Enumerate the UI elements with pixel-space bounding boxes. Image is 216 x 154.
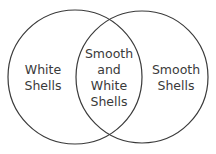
left-label-line2: Shells — [18, 78, 68, 94]
intersection-line1: Smooth — [83, 46, 135, 62]
right-label-line2: Shells — [148, 78, 204, 94]
intersection-line2: and — [83, 62, 135, 78]
right-label-line1: Smooth — [148, 62, 204, 78]
intersection-line3: White — [83, 78, 135, 94]
right-set-label: Smooth Shells — [148, 62, 204, 94]
intersection-line4: Shells — [83, 94, 135, 110]
left-label-line1: White — [18, 62, 68, 78]
intersection-label: Smooth and White Shells — [83, 46, 135, 110]
left-set-label: White Shells — [18, 62, 68, 94]
